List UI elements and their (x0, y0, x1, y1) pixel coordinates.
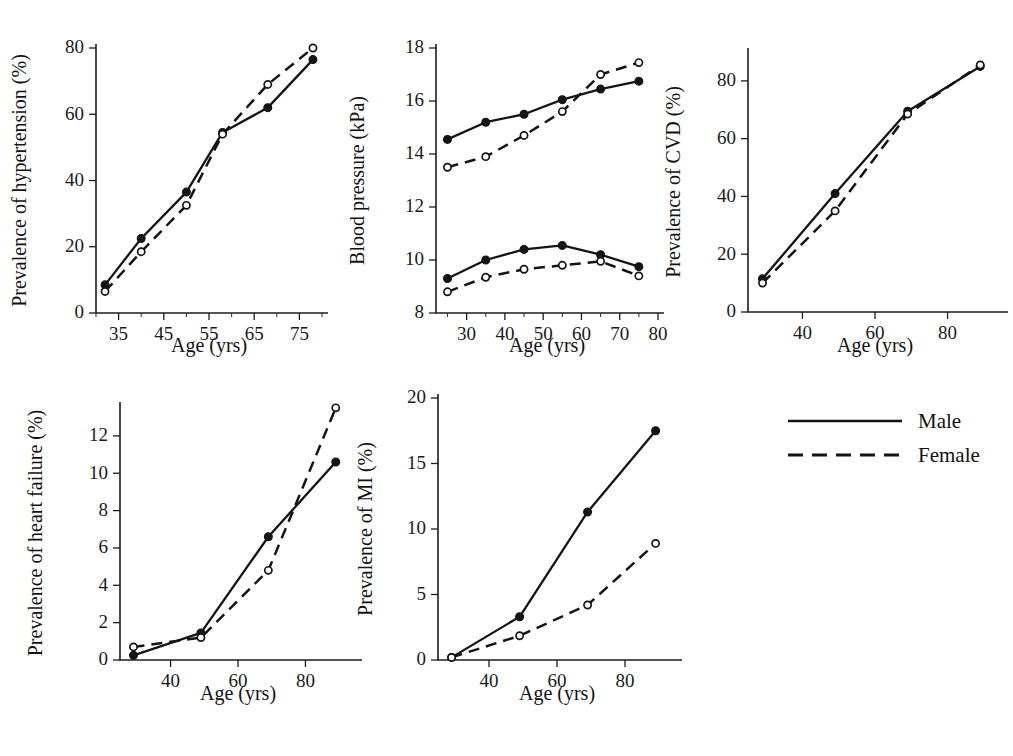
data-point-female (197, 634, 204, 641)
y-tick-label: 80 (65, 36, 84, 57)
y-tick-label: 10 (89, 462, 108, 483)
panel-mi: 05101520406080Prevalence of MI (%)Age (y… (376, 372, 706, 756)
x-tick-label: 70 (610, 323, 629, 344)
plot-blood-pressure: 81012141618304050607080Blood pressure (k… (338, 0, 678, 380)
data-point-female (264, 81, 271, 88)
data-point-male (264, 533, 272, 541)
data-point-male (309, 56, 317, 64)
data-point-male (444, 136, 452, 144)
y-tick-label: 8 (99, 499, 109, 520)
plot-hypertension: 0204060803545556575Prevalence of hyperte… (0, 0, 340, 380)
x-axis-title: Age (yrs) (509, 334, 585, 357)
data-point-female (904, 111, 911, 118)
y-axis-title: Prevalence of CVD (%) (662, 86, 685, 278)
data-point-female (138, 248, 145, 255)
data-point-female (520, 266, 527, 273)
data-point-female (265, 567, 272, 574)
data-point-male (137, 235, 145, 243)
series-line-female (133, 408, 335, 647)
series-line-male (447, 81, 638, 139)
series-line-female (447, 63, 638, 168)
y-axis-title: Blood pressure (kPa) (346, 96, 369, 265)
y-tick-label: 60 (717, 127, 736, 148)
x-tick-label: 35 (109, 323, 128, 344)
y-tick-label: 14 (405, 142, 425, 163)
data-point-male (558, 96, 566, 104)
legend-item-female: Female (786, 438, 980, 472)
data-point-female (977, 61, 984, 68)
data-point-female (635, 59, 642, 66)
x-tick-label: 80 (938, 322, 957, 343)
data-point-female (130, 643, 137, 650)
x-tick-label: 75 (290, 323, 309, 344)
plot-mi: 05101520406080Prevalence of MI (%)Age (y… (376, 372, 706, 756)
data-point-female (444, 164, 451, 171)
y-tick-label: 0 (75, 301, 85, 322)
data-point-male (482, 256, 490, 264)
legend-label-male: Male (918, 409, 961, 434)
plot-heart-failure: 024681012406080Prevalence of heart failu… (16, 372, 376, 756)
y-tick-label: 2 (99, 611, 109, 632)
x-tick-label: 65 (245, 323, 264, 344)
x-axis-title: Age (yrs) (200, 682, 276, 705)
data-point-female (652, 540, 659, 547)
y-axis-title: Prevalence of heart failure (%) (24, 410, 47, 657)
data-point-male (482, 118, 490, 126)
y-tick-label: 60 (65, 103, 84, 124)
data-point-female (482, 153, 489, 160)
data-point-male (635, 263, 643, 271)
data-point-female (444, 288, 451, 295)
y-tick-label: 18 (405, 36, 424, 57)
y-tick-label: 40 (717, 185, 736, 206)
y-tick-label: 12 (89, 424, 108, 445)
data-point-male (520, 110, 528, 118)
y-tick-label: 20 (717, 243, 736, 264)
y-tick-label: 8 (415, 301, 425, 322)
data-point-male (597, 85, 605, 93)
x-axis-title: Age (yrs) (171, 334, 247, 357)
x-axis-title: Age (yrs) (519, 682, 595, 705)
data-point-female (597, 71, 604, 78)
x-tick-label: 30 (457, 323, 476, 344)
data-point-male (831, 190, 839, 198)
data-point-female (219, 131, 226, 138)
y-tick-label: 0 (417, 648, 427, 669)
series-line-female (105, 48, 313, 291)
data-point-female (635, 272, 642, 279)
data-point-male (264, 104, 272, 112)
plot-cvd: 020406080406080Prevalence of CVD (%)Age … (672, 0, 1013, 380)
series-line-male (105, 60, 313, 285)
data-point-male (130, 651, 138, 659)
data-point-male (520, 246, 528, 254)
y-tick-label: 40 (65, 169, 84, 190)
data-point-female (584, 601, 591, 608)
y-tick-label: 20 (407, 386, 426, 407)
series-line-male (763, 66, 981, 278)
data-point-female (559, 262, 566, 269)
y-tick-label: 4 (99, 574, 109, 595)
panel-blood-pressure: 81012141618304050607080Blood pressure (k… (338, 0, 678, 380)
data-point-male (558, 242, 566, 250)
data-point-female (309, 44, 316, 51)
y-tick-label: 80 (717, 69, 736, 90)
x-tick-label: 40 (480, 670, 499, 691)
series-line-male (447, 245, 638, 278)
legend-label-female: Female (918, 443, 980, 468)
series-line-male (133, 462, 335, 655)
data-point-male (183, 188, 191, 196)
x-tick-label: 40 (161, 670, 180, 691)
data-point-female (559, 108, 566, 115)
y-tick-label: 16 (405, 89, 424, 110)
data-point-male (516, 613, 524, 621)
y-tick-label: 10 (407, 517, 426, 538)
y-tick-label: 0 (727, 300, 737, 321)
data-point-female (520, 132, 527, 139)
panel-hypertension: 0204060803545556575Prevalence of hyperte… (0, 0, 340, 380)
x-tick-label: 40 (793, 322, 812, 343)
legend-item-male: Male (786, 404, 980, 438)
data-point-female (482, 274, 489, 281)
data-point-male (332, 458, 340, 466)
y-tick-label: 15 (407, 452, 426, 473)
y-tick-label: 5 (417, 583, 427, 604)
data-point-female (516, 632, 523, 639)
